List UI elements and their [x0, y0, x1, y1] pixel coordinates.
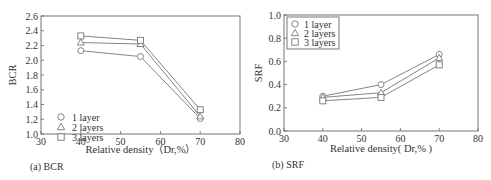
x-tick-label: 80 [473, 133, 483, 144]
square-marker [292, 39, 298, 45]
y-tick-label: 2.0 [26, 55, 39, 66]
square-marker [58, 134, 64, 140]
bcr-chart: 3040506070801.01.21.41.61.82.02.22.42.6R… [7, 11, 245, 174]
y-tick-label: 0.4 [269, 79, 282, 90]
triangle-marker [57, 123, 64, 129]
legend-entry: 3 layers [72, 132, 103, 143]
square-marker [436, 62, 442, 68]
square-marker [138, 37, 144, 43]
square-marker [320, 98, 326, 104]
circle-marker [378, 82, 384, 88]
y-tick-label: 1.4 [26, 99, 39, 110]
legend: 1 layer2 layers3 layers [287, 17, 339, 49]
circle-marker [292, 21, 298, 27]
y-axis-label: BCR [7, 64, 18, 85]
legend: 1 layer2 layers3 layers [57, 112, 103, 143]
circle-marker [78, 48, 84, 54]
x-tick-label: 80 [235, 136, 245, 147]
plot-frame [41, 16, 240, 134]
y-tick-label: 1.0 [269, 10, 282, 21]
triangle-marker [77, 39, 84, 45]
square-marker [78, 33, 84, 39]
x-axis-label: Relative density（Dr,%） [86, 144, 196, 155]
circle-marker [138, 54, 144, 60]
y-tick-label: 0.6 [269, 56, 282, 67]
x-tick-label: 40 [318, 133, 328, 144]
x-tick-label: 70 [195, 136, 205, 147]
figure: 3040506070801.01.21.41.61.82.02.22.42.6R… [0, 0, 491, 180]
x-tick-label: 70 [434, 133, 444, 144]
y-axis-label: SRF [253, 64, 264, 83]
y-tick-label: 2.4 [26, 25, 39, 36]
y-tick-label: 1.0 [26, 129, 39, 140]
y-tick-label: 1.6 [26, 84, 39, 95]
y-tick-label: 2.6 [26, 11, 39, 22]
y-tick-label: 2.2 [26, 40, 39, 51]
y-tick-label: 1.2 [26, 114, 39, 125]
circle-marker [58, 114, 64, 120]
figure-caption: (b) SRF [272, 159, 304, 171]
square-marker [197, 107, 203, 113]
y-tick-label: 0.0 [269, 126, 282, 137]
y-tick-label: 1.8 [26, 70, 39, 81]
x-axis-label: Relative density( Dr,% ) [330, 143, 433, 155]
legend-entry: 3 layers [304, 37, 335, 48]
y-tick-label: 0.8 [269, 33, 282, 44]
srf-chart: 3040506070800.00.20.40.60.81.0Relative d… [253, 10, 483, 172]
square-marker [378, 94, 384, 100]
series-line [81, 51, 200, 119]
figure-caption: (a) BCR [30, 161, 64, 173]
y-tick-label: 0.2 [269, 102, 282, 113]
